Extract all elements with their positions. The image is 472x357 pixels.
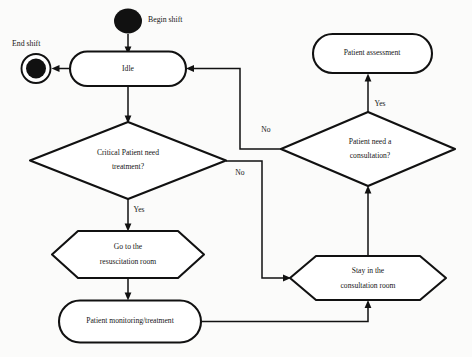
resuscitation-room-line1: Go to the [114,242,143,251]
idle-label: Idle [122,64,134,73]
consultation-room-shape [290,256,446,300]
begin-shift-label: Begin shift [148,15,183,24]
begin-shift-dot [114,9,142,34]
node-patient-assessment[interactable]: Patient assessment [313,34,432,73]
edge-monitoring-to-consultation-room [200,300,371,322]
flowchart-canvas: Resuscitation room --> right then down t… [0,0,472,357]
consultation-room-line1: Stay in the [352,266,385,275]
consultation-decision-line1: Patient need a [349,137,392,146]
consultation-decision-shape [281,112,455,186]
edge-idle-to-critical-decision [125,86,132,124]
edge-resuscitation-to-monitoring [125,278,132,301]
edge-consultation-room-to-decision [365,186,372,257]
patient-monitoring-label: Patient monitoring/treatment [86,316,174,325]
critical-decision-line1: Critical Patient need [97,148,159,157]
consultation-room-line2: consultation room [340,281,395,290]
end-shift-inner-dot [26,59,46,79]
edge-critical-no-to-consultation-room [226,161,291,281]
node-critical-decision[interactable]: Critical Patient need treatment? [30,122,226,199]
critical-decision-line2: treatment? [112,162,145,171]
node-patient-monitoring[interactable]: Patient monitoring/treatment [59,301,201,343]
edge-consultation-no-to-idle [186,65,284,149]
patient-assessment-label: Patient assessment [344,48,402,57]
edge-label-consultation-no: No [261,125,270,134]
node-begin-shift[interactable]: Begin shift [114,9,183,34]
edge-idle-to-end-shift [52,65,71,72]
node-consultation-room[interactable]: Stay in the consultation room [290,256,446,300]
critical-decision-shape [30,122,226,199]
edge-label-critical-no: No [235,168,244,177]
end-shift-label: End shift [12,39,41,48]
node-idle[interactable]: Idle [70,52,186,87]
node-consultation-decision[interactable]: Patient need a consultation? [281,112,455,186]
edge-label-consultation-yes: Yes [374,99,385,108]
node-end-shift[interactable]: End shift [12,39,51,83]
node-resuscitation-room[interactable]: Go to the resuscitation room [52,231,204,278]
resuscitation-room-line2: resuscitation room [100,257,156,266]
edge-consultation-yes-to-assessment [365,74,372,114]
consultation-decision-line2: consultation? [350,151,391,160]
edge-critical-yes-to-resuscitation [125,198,132,232]
resuscitation-room-shape [52,231,204,278]
edge-label-critical-yes: Yes [133,205,144,214]
